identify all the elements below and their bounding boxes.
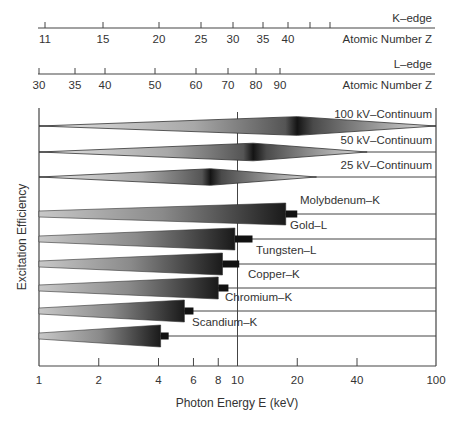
- x-tick-label: 6: [190, 374, 196, 386]
- x-axis: 12468102040100: [36, 358, 446, 386]
- char-line-wedge: [39, 277, 218, 299]
- char-line-label: Molybdenum–K: [300, 194, 380, 206]
- continuum-label: 25 kV–Continuum: [341, 159, 432, 171]
- continuum-label: 50 kV–Continuum: [341, 134, 432, 146]
- continuum-label: 100 kV–Continuum: [334, 108, 432, 120]
- excitation-efficiency-chart: 11152025303540K–edgeAtomic Number Z30354…: [0, 0, 458, 421]
- char-line-peak: [184, 308, 193, 315]
- top-axis-tick-label: 30: [33, 79, 46, 91]
- top-axis-tick-label: 40: [282, 33, 295, 45]
- top-axis-tick-label: 50: [149, 79, 162, 91]
- top-axis-title: K–edge: [392, 12, 432, 24]
- char-line-label: Gold–L: [290, 219, 328, 231]
- char-line-label: Copper–K: [248, 268, 300, 280]
- char-line-label: Tungsten–L: [256, 244, 317, 256]
- x-axis-label: Photon Energy E (keV): [176, 396, 299, 410]
- x-tick-label: 1: [36, 374, 42, 386]
- top-axis-tick-label: 40: [99, 79, 112, 91]
- continuum-lens: [39, 143, 367, 161]
- char-line-peak: [235, 236, 253, 243]
- top-axis-tick-label: 80: [250, 79, 263, 91]
- char-line-wedge: [39, 253, 222, 275]
- top-axes: 11152025303540K–edgeAtomic Number Z30354…: [33, 12, 435, 91]
- top-axis-tick-label: 30: [227, 33, 240, 45]
- x-tick-label: 10: [231, 374, 244, 386]
- top-axis-tick-label: 35: [69, 79, 82, 91]
- char-line-peak: [286, 211, 298, 218]
- top-axis-tick-label: 60: [190, 79, 203, 91]
- top-axis-tick-label: 90: [274, 79, 287, 91]
- char-line-wedge: [39, 228, 235, 250]
- x-tick-label: 4: [155, 374, 162, 386]
- x-tick-label: 20: [291, 374, 304, 386]
- x-tick-label: 8: [215, 374, 221, 386]
- top-axis-tick-label: 20: [153, 33, 166, 45]
- char-line-wedge: [39, 203, 286, 225]
- top-axis-label: Atomic Number Z: [343, 33, 432, 45]
- top-axis-tick-label: 15: [97, 33, 110, 45]
- top-axis-title: L–edge: [394, 58, 432, 70]
- top-axis-tick-label: 35: [257, 33, 270, 45]
- char-line-peak: [222, 261, 239, 268]
- top-axis-tick-label: 25: [195, 33, 208, 45]
- y-axis-label: Excitation Efficiency: [15, 184, 29, 291]
- top-axis-k-edge: 11152025303540K–edgeAtomic Number Z: [38, 12, 435, 45]
- top-axis-l-edge: 3035405060708090L–edgeAtomic Number Z: [33, 58, 435, 91]
- char-line-label: Chromium–K: [225, 291, 292, 303]
- x-tick-label: 40: [351, 374, 364, 386]
- top-axis-tick-label: 11: [39, 33, 51, 45]
- top-axis-tick-label: 70: [222, 79, 235, 91]
- char-line-wedge: [39, 300, 184, 322]
- char-line-wedge: [39, 325, 161, 347]
- x-tick-label: 2: [96, 374, 102, 386]
- top-axis-label: Atomic Number Z: [343, 79, 432, 91]
- continuum-lens: [39, 169, 316, 186]
- continua: 100 kV–Continuum50 kV–Continuum25 kV–Con…: [39, 108, 436, 185]
- char-line-label: Scandium–K: [192, 316, 258, 328]
- char-line-peak: [161, 333, 169, 340]
- x-tick-label: 100: [426, 374, 445, 386]
